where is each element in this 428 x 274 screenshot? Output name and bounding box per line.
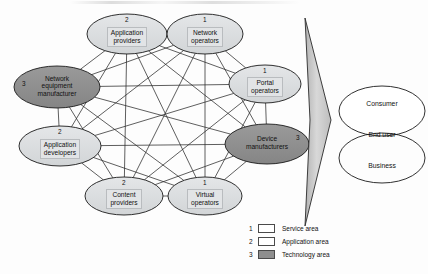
legend-label: Technology area — [282, 251, 330, 258]
flow-arrow-icon — [305, 18, 331, 226]
legend-label: Application area — [282, 238, 329, 245]
legend: 1 Service area 2 Application area 3 Tech… — [249, 222, 330, 261]
node-application-providers[interactable] — [87, 14, 167, 54]
business-ellipse — [339, 133, 425, 183]
edge-application-providers-to-virtual-operators — [136, 53, 196, 177]
diagram-graphics — [0, 0, 428, 274]
legend-swatch-service — [258, 224, 275, 234]
legend-swatch-technology — [258, 250, 275, 260]
edge-application-developers-to-network-equipment-manufacturer — [58, 108, 59, 126]
node-portal-operators[interactable] — [229, 65, 301, 103]
node-device-manufacturers[interactable] — [225, 124, 309, 164]
legend-number: 1 — [249, 225, 258, 232]
legend-row: 2 Application area — [249, 235, 330, 248]
edge-application-providers-to-network-equipment-manufacturer — [80, 51, 105, 70]
consumer-ellipse — [339, 86, 425, 136]
edge-layer — [58, 34, 266, 196]
diagram-canvas: Consumer End user Business 1 Service are… — [0, 0, 428, 274]
edge-portal-operators-to-network-equipment-manufacturer — [100, 85, 229, 87]
edge-content-providers-to-application-developers — [82, 163, 104, 180]
edge-portal-operators-to-device-manufacturers — [266, 103, 267, 124]
legend-row: 1 Service area — [249, 222, 330, 235]
node-application-developers[interactable] — [19, 126, 101, 166]
edge-network-operators-to-content-providers — [133, 53, 195, 177]
edge-device-manufacturers-to-network-equipment-manufacturer — [95, 97, 231, 134]
legend-row: 3 Technology area — [249, 248, 330, 261]
legend-number: 3 — [249, 251, 258, 258]
node-virtual-operators[interactable] — [168, 177, 242, 215]
node-network-operators[interactable] — [167, 14, 243, 54]
legend-swatch-application — [258, 237, 275, 247]
edge-network-operators-to-portal-operators — [225, 51, 245, 68]
legend-label: Service area — [282, 225, 319, 232]
node-content-providers[interactable] — [85, 177, 163, 215]
node-network-equipment-manufacturer[interactable] — [14, 66, 100, 108]
edge-device-manufacturers-to-application-developers — [101, 144, 225, 145]
legend-number: 2 — [249, 238, 258, 245]
edge-device-manufacturers-to-virtual-operators — [224, 161, 246, 179]
edge-application-providers-to-content-providers — [124, 54, 126, 177]
